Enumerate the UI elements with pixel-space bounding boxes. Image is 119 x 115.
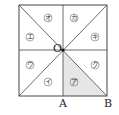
svg-text:ウ: ウ xyxy=(27,61,34,69)
region-ki-label: キ xyxy=(91,33,99,41)
region-ka-label: カ xyxy=(70,14,78,22)
point-label-o: O xyxy=(53,42,62,55)
svg-text:ア: ア xyxy=(71,78,78,86)
svg-text:カ: カ xyxy=(71,14,78,22)
region-a-label: ア xyxy=(70,78,78,86)
svg-text:キ: キ xyxy=(92,33,99,41)
region-i-label: イ xyxy=(44,78,52,86)
svg-text:オ: オ xyxy=(45,14,52,22)
region-o-label: オ xyxy=(44,14,52,22)
region-e-label: エ xyxy=(26,33,34,41)
region-u-label: ウ xyxy=(26,61,34,69)
svg-text:イ: イ xyxy=(45,78,52,86)
region-ku-label: ク xyxy=(91,61,99,69)
svg-text:エ: エ xyxy=(27,33,34,41)
geometry-diagram: ア イ ウ エ オ カ キ ク O A B xyxy=(0,0,119,115)
point-label-b: B xyxy=(104,97,112,110)
point-label-a: A xyxy=(58,97,68,110)
svg-text:ク: ク xyxy=(92,61,99,69)
